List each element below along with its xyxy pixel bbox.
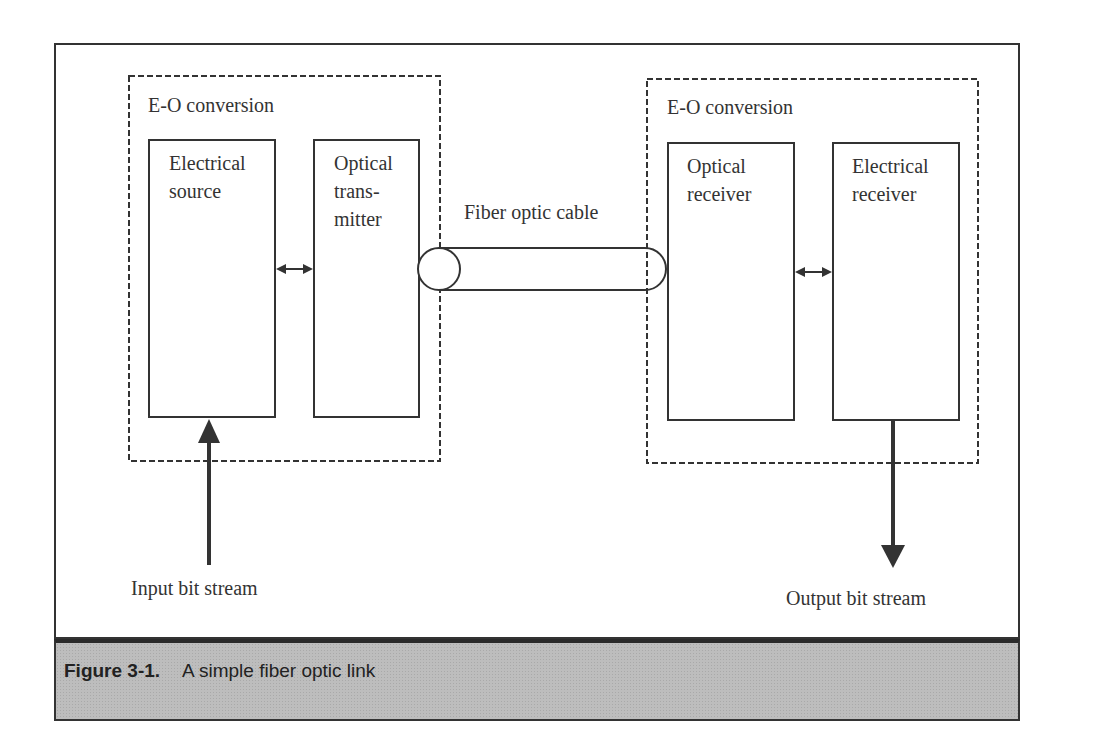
electrical-source-label-1: Electrical <box>169 152 246 174</box>
cable-label: Fiber optic cable <box>464 201 599 224</box>
electrical-receiver-label-1: Electrical <box>852 155 929 177</box>
output-arrow-icon <box>881 420 905 568</box>
optical-receiver-label-2: receiver <box>687 183 752 205</box>
right-group-title: E-O conversion <box>667 96 793 118</box>
input-arrow-icon <box>198 419 220 565</box>
fiber-optic-link-diagram: E-O conversion Electrical source Optical… <box>0 0 1104 744</box>
right-eo-conversion-group: E-O conversion Optical receiver Electric… <box>647 79 978 463</box>
electrical-receiver-label-2: receiver <box>852 183 917 205</box>
cable-end-circle <box>418 248 460 290</box>
optical-transmitter-label-1: Optical <box>334 152 393 175</box>
fiber-optic-cable: Fiber optic cable <box>418 201 666 290</box>
bidirectional-arrow-icon <box>795 267 832 277</box>
optical-transmitter-label-2: trans- <box>334 180 380 202</box>
electrical-source-label-2: source <box>169 180 221 202</box>
figure-caption-text: A simple fiber optic link <box>182 660 375 681</box>
left-group-title: E-O conversion <box>148 94 274 116</box>
optical-receiver-label-1: Optical <box>687 155 746 178</box>
figure-number: Figure 3-1. <box>64 660 160 681</box>
output-bit-stream-label: Output bit stream <box>786 587 926 610</box>
bidirectional-arrow-icon <box>276 264 313 274</box>
figure-caption: Figure 3-1.A simple fiber optic link <box>64 660 375 682</box>
optical-transmitter-label-3: mitter <box>334 208 382 230</box>
left-eo-conversion-group: E-O conversion Electrical source Optical… <box>129 76 440 461</box>
input-bit-stream-label: Input bit stream <box>131 577 258 600</box>
